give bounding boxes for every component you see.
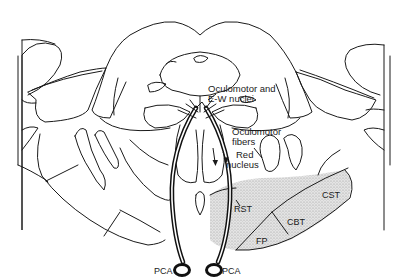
label-pca-left: PCA — [154, 266, 173, 276]
left-lateral-structures — [18, 40, 106, 231]
label-cbt: CBT — [287, 217, 306, 227]
pca-right-vessel — [207, 265, 222, 276]
label-fibers: fibers — [232, 136, 255, 147]
label-cst: CST — [322, 190, 341, 200]
pca-left-vessel — [175, 265, 190, 276]
midbrain-diagram: Oculomotor and E-W nuclei Oculomotor fib… — [0, 0, 401, 279]
label-red-nucleus: nucleus — [226, 159, 259, 170]
label-fp: FP — [256, 236, 268, 246]
oculomotor-nerve-left — [172, 108, 196, 262]
left-ventral-structures — [37, 128, 170, 245]
label-rst: RST — [234, 204, 253, 214]
label-pca-right: PCA — [222, 266, 241, 276]
label-ew-nuclei: E-W nuclei — [208, 93, 254, 104]
